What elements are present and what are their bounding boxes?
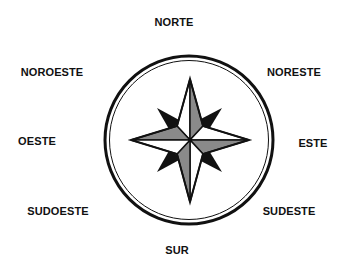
label-east: ESTE (298, 137, 327, 149)
label-northwest: NOROESTE (21, 66, 84, 78)
label-south: SUR (165, 244, 189, 256)
label-southeast: SUDESTE (263, 205, 316, 217)
label-northeast: NORESTE (267, 66, 321, 78)
label-west: OESTE (18, 135, 56, 147)
label-southwest: SUDOESTE (27, 205, 88, 217)
compass-rose (0, 0, 344, 261)
label-north: NORTE (155, 16, 194, 28)
cardinal-points (131, 79, 249, 202)
